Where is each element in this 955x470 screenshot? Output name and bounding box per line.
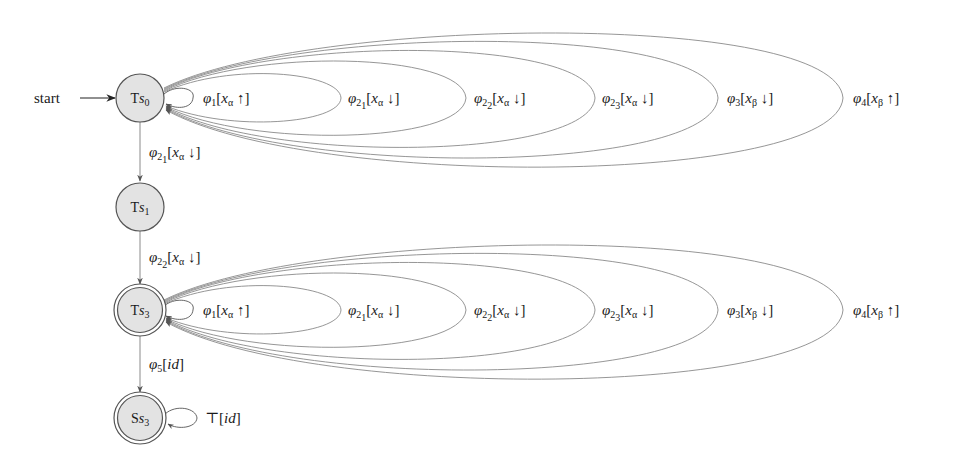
node-prefix: T [130, 303, 139, 318]
loop-ts3-phi1 [164, 300, 193, 319]
loop-label-ts0-phi1: φ1[xα ↑] [203, 91, 249, 106]
loop-label-ts3-phi22: φ22[xα ↓] [474, 303, 525, 318]
loop-label-ts3-phi23: φ23[xα ↓] [602, 303, 653, 318]
loop-label-ss3-top: ⊤[id] [205, 411, 241, 426]
node-prefix: T [130, 200, 139, 215]
node-sub: 0 [145, 97, 150, 108]
edge-label-ts3-ss3: φ5[id] [149, 357, 184, 372]
edge-label-ts1-ts3: φ22[xα ↓] [149, 250, 200, 265]
loop-label-ts0-phi3: φ3[xβ ↓] [727, 91, 773, 106]
loop-label-ts3-phi3: φ3[xβ ↓] [727, 303, 773, 318]
loop-label-ts0-phi23: φ23[xα ↓] [602, 91, 653, 106]
node-label-ts1: Ts1 [130, 200, 149, 216]
node-sub: 3 [144, 417, 149, 428]
state-diagram [0, 0, 955, 470]
loop-ts0-phi21 [164, 74, 341, 122]
loop-label-ts3-phi4: φ4[xβ ↑] [853, 303, 899, 318]
node-prefix: S [131, 411, 139, 426]
start-label: start [34, 91, 60, 106]
loop-ss3-top [165, 408, 197, 427]
loop-label-ts3-phi21: φ21[xα ↓] [348, 303, 399, 318]
loop-label-ts0-phi4: φ4[xβ ↑] [853, 91, 899, 106]
loop-label-ts3-phi1: φ1[xα ↑] [203, 303, 249, 318]
loop-label-ts0-phi22: φ22[xα ↓] [474, 91, 525, 106]
node-label-ts0: Ts0 [130, 91, 149, 107]
loop-ts0-phi1 [164, 88, 193, 107]
loop-label-ts0-phi21: φ21[xα ↓] [348, 91, 399, 106]
node-label-ts3: Ts3 [130, 303, 149, 319]
node-sub: 1 [145, 206, 150, 217]
node-prefix: T [130, 91, 139, 106]
node-label-ss3: Ss3 [131, 411, 149, 427]
edge-label-ts0-ts1: φ21[xα ↓] [149, 145, 200, 160]
node-sub: 3 [145, 309, 150, 320]
loop-ts3-phi21 [164, 286, 341, 334]
